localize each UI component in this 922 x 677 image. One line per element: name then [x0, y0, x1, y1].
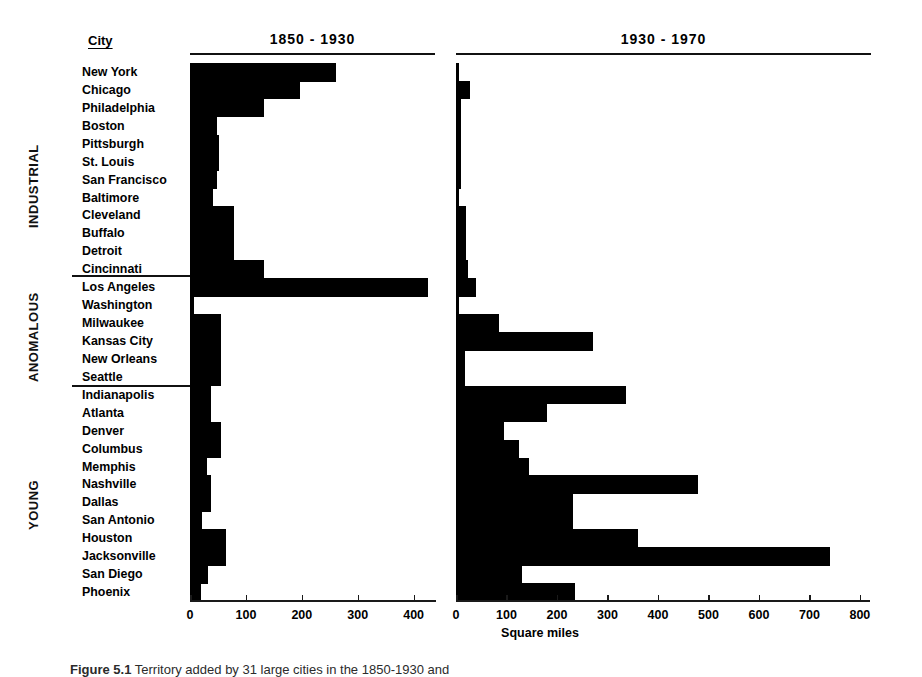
x-axis-tick-label: 800	[849, 608, 870, 622]
city-label: Jacksonville	[82, 550, 156, 562]
figure-caption-text: Territory added by 31 large cities in th…	[135, 662, 449, 677]
bar	[190, 171, 217, 190]
bar	[456, 529, 638, 548]
bar	[456, 189, 459, 208]
city-label: Kansas City	[82, 335, 153, 347]
bar	[190, 99, 264, 118]
x-axis-tick-label: 400	[403, 608, 424, 622]
bar	[456, 296, 459, 315]
city-label: Los Angeles	[82, 281, 155, 293]
city-label: Philadelphia	[82, 102, 155, 114]
city-label: Denver	[82, 425, 124, 437]
panel-rule-right	[456, 53, 871, 55]
city-label: New York	[82, 66, 137, 78]
city-column-header: City	[88, 33, 113, 48]
x-axis-tick	[190, 595, 192, 601]
x-axis-tick	[809, 595, 811, 601]
bar	[190, 440, 221, 459]
x-axis-tick-label: 200	[547, 608, 568, 622]
city-label: Columbus	[82, 443, 143, 455]
x-axis-tick-label: 600	[748, 608, 769, 622]
bar	[456, 171, 461, 190]
city-label: Atlanta	[82, 407, 124, 419]
group-label-young: YOUNG	[26, 440, 41, 570]
bar	[190, 117, 217, 136]
x-axis-tick	[358, 595, 360, 601]
bar	[456, 314, 499, 333]
bar	[456, 260, 468, 279]
bar	[456, 493, 573, 512]
chart-panel-1850-1930	[190, 62, 436, 590]
figure-caption: Figure 5.1 Territory added by 31 large c…	[70, 662, 449, 677]
bar	[190, 511, 202, 530]
x-axis-tick-label: 300	[597, 608, 618, 622]
bar	[190, 242, 234, 261]
x-axis-tick	[456, 595, 458, 601]
bar	[456, 242, 466, 261]
group-label-anomalous: ANOMALOUS	[26, 290, 41, 385]
city-label: Memphis	[82, 461, 136, 473]
bar	[456, 368, 465, 387]
bar	[190, 153, 219, 172]
city-label: Cleveland	[82, 209, 141, 221]
x-axis-tick	[506, 595, 508, 601]
city-label: Milwaukee	[82, 317, 144, 329]
bar	[190, 493, 211, 512]
bar	[456, 422, 504, 441]
city-label: Nashville	[82, 478, 136, 490]
panel-title-right: 1930 - 1970	[456, 31, 871, 47]
city-label: Dallas	[82, 496, 119, 508]
bar	[456, 117, 461, 136]
bar	[456, 278, 476, 297]
city-label: Indianapolis	[82, 389, 154, 401]
bar	[190, 314, 221, 333]
bar	[190, 296, 194, 315]
bar	[190, 260, 264, 279]
x-axis-left	[190, 600, 436, 602]
city-label: San Diego	[82, 568, 143, 580]
x-axis-tick-label: 100	[235, 608, 256, 622]
city-label: Buffalo	[82, 227, 125, 239]
bar	[190, 224, 234, 243]
bar	[190, 332, 221, 351]
bar	[190, 368, 221, 387]
bar	[190, 81, 300, 100]
bar	[190, 404, 211, 423]
bar	[190, 475, 211, 494]
x-axis-tick-label: 0	[187, 608, 194, 622]
x-axis-tick	[557, 595, 559, 601]
x-axis-tick-label: 500	[698, 608, 719, 622]
bar	[190, 350, 221, 369]
city-label: Baltimore	[82, 192, 139, 204]
panel-title-left: 1850 - 1930	[190, 31, 435, 47]
bar	[456, 224, 466, 243]
bar	[456, 153, 461, 172]
x-axis-tick-label: 700	[799, 608, 820, 622]
city-label: St. Louis	[82, 156, 134, 168]
bar	[456, 81, 470, 100]
city-label: Pittsburgh	[82, 138, 144, 150]
bar	[190, 422, 221, 441]
bar	[190, 206, 234, 225]
bar	[456, 547, 830, 566]
bar	[190, 63, 336, 82]
bar	[456, 475, 698, 494]
city-label: Cincinnati	[82, 263, 142, 275]
x-axis-tick	[246, 595, 248, 601]
x-axis-tick	[302, 595, 304, 601]
bar	[456, 458, 529, 477]
bar	[456, 511, 573, 530]
bar	[456, 565, 522, 584]
x-axis-right	[456, 600, 870, 602]
bar	[456, 404, 547, 423]
x-axis-tick	[860, 595, 862, 601]
figure-caption-prefix: Figure 5.1	[70, 662, 131, 677]
bar	[190, 189, 213, 208]
bar	[456, 206, 466, 225]
city-label: Chicago	[82, 84, 131, 96]
bar	[190, 458, 207, 477]
bar	[190, 547, 226, 566]
city-label: Boston	[82, 120, 125, 132]
x-axis-tick-label: 0	[453, 608, 460, 622]
